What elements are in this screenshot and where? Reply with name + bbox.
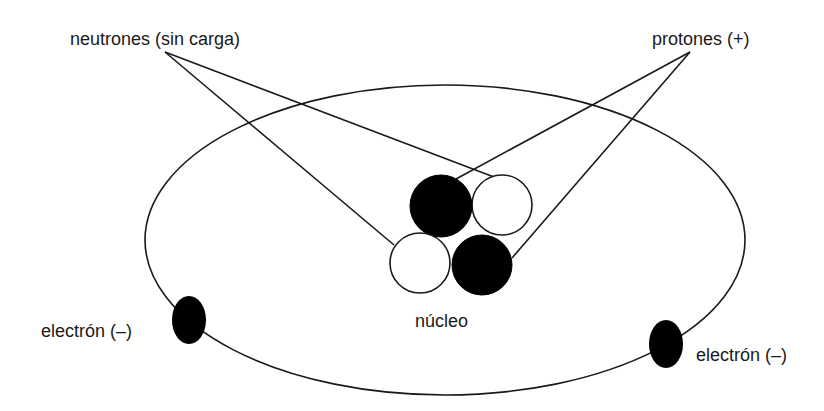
neutron-leader-line-2 [165, 52, 394, 245]
neutron-top-right [472, 175, 532, 235]
electron-left [172, 296, 206, 344]
nucleus [390, 175, 532, 295]
neutron-bottom-left [390, 233, 450, 293]
proton-leader-line-2 [512, 52, 690, 258]
electron-right-label: electrón (–) [696, 346, 787, 364]
neutrons-label: neutrones (sin carga) [70, 30, 240, 48]
proton-bottom-right [452, 235, 512, 295]
neutron-leader-line-1 [165, 52, 494, 177]
proton-leader-line-1 [456, 52, 690, 179]
electron-right [649, 320, 683, 368]
nucleus-label: núcleo [415, 312, 468, 330]
proton-top-left [410, 175, 472, 237]
protons-label: protones (+) [652, 30, 750, 48]
electron-left-label: electrón (–) [41, 322, 132, 340]
